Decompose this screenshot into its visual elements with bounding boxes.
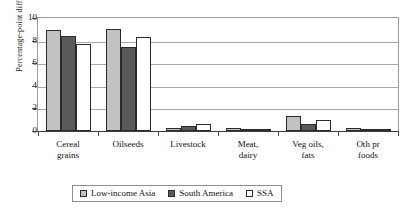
x-axis-label: Meat, dairy — [218, 139, 278, 160]
chart-legend: Low-income AsiaSouth AmericaSSA — [72, 185, 282, 202]
bar — [196, 124, 211, 131]
bar — [301, 124, 316, 131]
legend-item: SSA — [246, 189, 274, 198]
x-axis-label: Veg oils, fats — [278, 139, 338, 160]
bar — [121, 47, 136, 131]
x-tick-mark — [38, 131, 39, 136]
bar-group — [338, 18, 398, 131]
x-tick-mark — [158, 131, 159, 136]
x-tick-mark — [398, 131, 399, 136]
legend-swatch-icon — [80, 190, 87, 197]
bar-group — [98, 18, 158, 131]
legend-item: Low-income Asia — [80, 189, 155, 198]
bar — [76, 44, 91, 131]
bar-chart: Percentage-point difference 0246810 Cere… — [0, 0, 408, 212]
bar — [46, 30, 61, 131]
bar — [136, 37, 151, 131]
bar-group — [158, 18, 218, 131]
legend-item: South America — [168, 189, 233, 198]
bar-group — [218, 18, 278, 131]
legend-swatch-icon — [246, 190, 253, 197]
legend-label: SSA — [257, 189, 274, 198]
x-tick-mark — [218, 131, 219, 136]
x-tick-mark — [338, 131, 339, 136]
legend-label: Low-income Asia — [91, 189, 155, 198]
x-tick-mark — [278, 131, 279, 136]
x-tick-mark — [98, 131, 99, 136]
bar — [61, 36, 76, 131]
bar-group — [38, 18, 98, 131]
bar — [316, 120, 331, 131]
bar — [286, 116, 301, 131]
y-axis-ticks: 0246810 — [0, 0, 37, 212]
bars-layer — [38, 18, 398, 131]
x-axis-label: Livestock — [158, 139, 218, 150]
x-axis-label: Cereal grains — [38, 139, 98, 160]
legend-swatch-icon — [168, 190, 175, 197]
bar-group — [278, 18, 338, 131]
legend-label: South America — [179, 189, 233, 198]
x-axis-label: Oth pr foods — [338, 139, 398, 160]
x-axis-label: Oilseeds — [98, 139, 158, 150]
bar — [106, 29, 121, 131]
